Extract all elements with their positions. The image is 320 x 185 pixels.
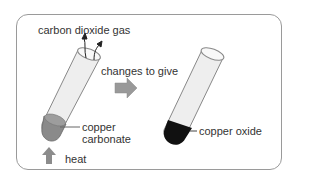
- product-label: copper oxide: [199, 125, 262, 137]
- change-label: changes to give: [101, 65, 178, 77]
- reactant-label-line2: carbonate: [82, 133, 131, 145]
- reactant-label-line1: copper: [82, 121, 116, 133]
- heat-label: heat: [65, 153, 86, 165]
- process-arrow-icon: [115, 78, 137, 98]
- heat-arrow-icon: [42, 147, 56, 164]
- gas-label: carbon dioxide gas: [38, 24, 130, 36]
